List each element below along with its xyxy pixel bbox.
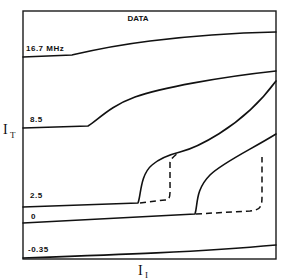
- curve-label: -0.35: [28, 245, 49, 254]
- svg-text:I: I: [138, 263, 143, 278]
- x-axis-label: I I: [138, 263, 148, 280]
- svg-text:T: T: [10, 130, 16, 140]
- y-axis-label: I T: [3, 122, 16, 140]
- curve-6: [23, 245, 276, 258]
- chart-title: DATA: [127, 14, 148, 23]
- curve-2: [23, 81, 276, 207]
- svg-text:I: I: [145, 270, 148, 280]
- curve-label: 0: [31, 212, 36, 221]
- svg-text:I: I: [3, 122, 8, 137]
- curve-4: [23, 134, 276, 223]
- curve-label: 16.7 MHz: [26, 44, 64, 53]
- curve-label: 2.5: [30, 191, 43, 200]
- curve-dashed-5: [196, 157, 262, 214]
- curves-group: [23, 32, 276, 258]
- curve-label: 8.5: [30, 115, 43, 124]
- chart: DATA 16.7 MHz8.52.50-0.35 I T I I: [0, 0, 285, 280]
